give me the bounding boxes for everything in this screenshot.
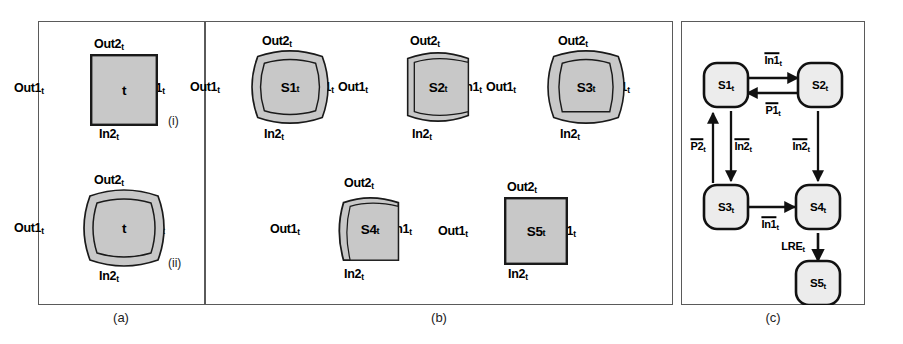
shape-barrel-all: t xyxy=(84,188,164,268)
port-label-top: Out2t xyxy=(94,38,124,51)
edge-label-s3-s1: P2t xyxy=(690,141,705,153)
shape-barrel-all: S3t xyxy=(548,49,624,125)
state-label-s2: S2t xyxy=(812,79,828,91)
edge-label-s2-s1: P1t xyxy=(765,105,780,117)
edge-label-s1-s3: In2t xyxy=(734,141,751,153)
port-label-bottom: In2t xyxy=(99,128,119,141)
shape-square: S5t xyxy=(504,197,568,265)
port-label-left: Out1t xyxy=(14,82,44,95)
port-label-bottom: In2t xyxy=(412,128,432,141)
port-label-top: Out2t xyxy=(410,35,440,48)
port-label-left: Out1t xyxy=(438,225,468,238)
state-transition-diagram: S1t S2t S3t S4t S5t In1t P1t In2t P2t In… xyxy=(681,21,865,305)
port-label-top: Out2t xyxy=(262,35,292,48)
edge-label-s4-s5: LREt xyxy=(781,241,804,253)
state-label-s3: S3t xyxy=(718,201,734,213)
port-label-bottom: In2t xyxy=(264,128,284,141)
panel-a-caption: (a) xyxy=(91,310,151,325)
port-label-bottom: In2t xyxy=(508,268,528,281)
port-label-left: Out1t xyxy=(14,222,44,235)
shape-cylinder-vertical: S2t xyxy=(402,49,474,125)
port-label-bottom: In2t xyxy=(99,270,119,283)
edge-label-s3-s4: In1t xyxy=(761,219,778,231)
edge-label-s2-s4: In2t xyxy=(792,141,809,153)
item-index-ii: (ii) xyxy=(168,256,181,270)
port-label-top: Out2t xyxy=(344,177,374,190)
port-label-left: Out1t xyxy=(486,81,516,94)
port-label-top: Out2t xyxy=(507,181,537,194)
port-label-left: Out1t xyxy=(190,81,220,94)
port-label-top: Out2t xyxy=(94,174,124,187)
port-label-bottom: In2t xyxy=(560,128,580,141)
panel-c-caption: (c) xyxy=(743,310,803,325)
edge-label-s1-s2: In1t xyxy=(764,55,781,67)
shape-barrel-all: S1t xyxy=(252,49,328,125)
item-index-i: (i) xyxy=(168,114,179,128)
shape-square: t xyxy=(90,54,158,126)
state-label-s5: S5t xyxy=(810,277,826,289)
state-label-s1: S1t xyxy=(718,79,734,91)
figure-root: (a) Out2t Out1t In1t In2t t (i) Out2t Ou… xyxy=(0,0,903,344)
port-label-top: Out2t xyxy=(558,35,588,48)
port-label-left: Out1t xyxy=(338,81,368,94)
port-label-left: Out1t xyxy=(270,223,300,236)
shape-bulge-left-top: S4t xyxy=(336,192,404,266)
panel-b-caption: (b) xyxy=(409,310,469,325)
state-label-s4: S4t xyxy=(810,201,826,213)
port-label-bottom: In2t xyxy=(344,268,364,281)
